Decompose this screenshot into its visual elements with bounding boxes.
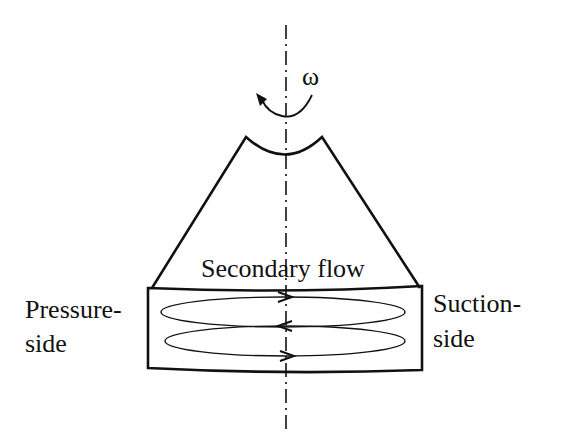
omega-label: ω — [302, 62, 319, 91]
secondary-flow-diagram: ω Secondary flow Pressure- side Suction-… — [0, 0, 562, 448]
suction-side-label-line2: side — [433, 324, 475, 353]
pressure-side-label-line2: side — [25, 329, 67, 358]
rotation-arrow-icon — [256, 93, 312, 117]
vortex-lower — [165, 326, 405, 356]
suction-side-label-line1: Suction- — [433, 289, 521, 318]
vortex-upper — [161, 297, 405, 327]
secondary-flow-label: Secondary flow — [201, 254, 365, 283]
pressure-side-label-line1: Pressure- — [25, 295, 122, 324]
